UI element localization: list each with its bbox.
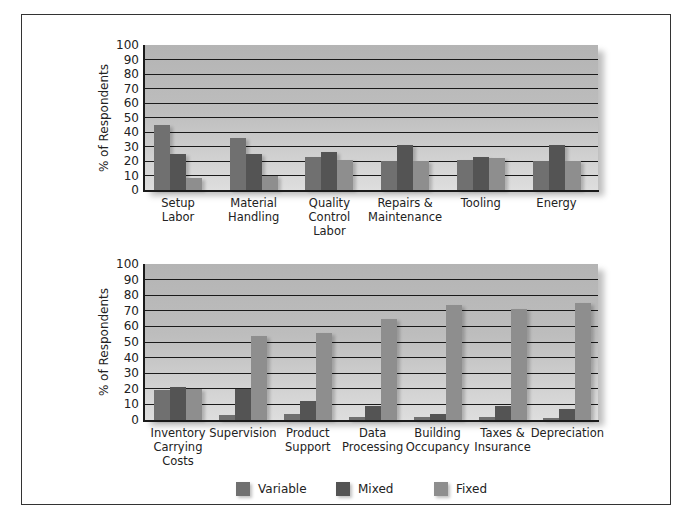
- gridline: [144, 357, 598, 358]
- bar-mixed: [495, 406, 511, 420]
- x-axis: [143, 420, 599, 422]
- bar-mixed: [170, 154, 186, 190]
- bar-fixed: [575, 303, 591, 420]
- y-tick-label: 0: [109, 184, 139, 196]
- y-tick-label: 100: [109, 39, 139, 51]
- gridline: [144, 326, 598, 327]
- bar-fixed: [186, 178, 202, 190]
- bar-variable: [305, 157, 321, 190]
- legend-label: Variable: [258, 482, 307, 496]
- legend-item-variable: Variable: [236, 482, 307, 496]
- bar-mixed: [170, 387, 186, 420]
- bar-variable: [230, 138, 246, 190]
- y-tick-label: 40: [109, 126, 139, 138]
- x-axis: [143, 190, 599, 192]
- y-axis-label: % of Respondents: [97, 58, 111, 178]
- bar-variable: [154, 390, 170, 420]
- gridline: [144, 388, 598, 389]
- y-tick-label: 60: [109, 320, 139, 332]
- x-category-label: Energy: [512, 196, 602, 210]
- gridline: [144, 117, 598, 118]
- bar-variable: [381, 161, 397, 190]
- gridline: [144, 373, 598, 374]
- y-tick-label: 100: [109, 258, 139, 270]
- legend-label: Mixed: [358, 482, 393, 496]
- y-tick-label: 60: [109, 97, 139, 109]
- bar-fixed: [262, 176, 278, 191]
- y-tick-label: 50: [109, 336, 139, 348]
- gridline: [144, 74, 598, 75]
- plot-area: [144, 264, 598, 420]
- plot-area: [144, 45, 598, 190]
- y-tick-label: 50: [109, 112, 139, 124]
- bar-fixed: [565, 161, 581, 190]
- bar-mixed: [473, 157, 489, 190]
- bar-mixed: [235, 389, 251, 420]
- gridline: [144, 404, 598, 405]
- gridline: [144, 310, 598, 311]
- legend-swatch-fixed: [434, 482, 448, 496]
- bar-fixed: [489, 158, 505, 190]
- gridline: [144, 279, 598, 280]
- bar-fixed: [511, 309, 527, 420]
- gridline: [144, 132, 598, 133]
- y-axis-label: % of Respondents: [97, 282, 111, 402]
- gridline: [144, 59, 598, 60]
- y-axis: [143, 264, 145, 421]
- y-tick-label: 70: [109, 83, 139, 95]
- gridline: [144, 103, 598, 104]
- y-tick-label: 90: [109, 274, 139, 286]
- bar-fixed: [446, 305, 462, 420]
- bar-fixed: [186, 389, 202, 420]
- bar-mixed: [559, 409, 575, 420]
- x-category-label: Depreciation: [522, 426, 612, 440]
- bar-fixed: [413, 161, 429, 190]
- y-tick-label: 0: [109, 414, 139, 426]
- bar-fixed: [251, 336, 267, 420]
- y-tick-label: 30: [109, 367, 139, 379]
- y-tick-label: 20: [109, 383, 139, 395]
- bar-fixed: [337, 160, 353, 190]
- y-axis: [143, 45, 145, 191]
- bar-mixed: [365, 406, 381, 420]
- legend-swatch-mixed: [336, 482, 350, 496]
- bar-fixed: [316, 333, 332, 420]
- y-tick-label: 10: [109, 170, 139, 182]
- legend-label: Fixed: [456, 482, 487, 496]
- y-tick-label: 20: [109, 155, 139, 167]
- bar-mixed: [397, 145, 413, 190]
- bar-variable: [533, 161, 549, 190]
- bar-fixed: [381, 319, 397, 420]
- bar-mixed: [300, 401, 316, 420]
- gridline: [144, 88, 598, 89]
- bar-mixed: [246, 154, 262, 190]
- legend-item-fixed: Fixed: [434, 482, 487, 496]
- gridline: [144, 161, 598, 162]
- y-tick-label: 90: [109, 54, 139, 66]
- gridline: [144, 175, 598, 176]
- gridline: [144, 342, 598, 343]
- y-tick-label: 80: [109, 68, 139, 80]
- legend-item-mixed: Mixed: [336, 482, 393, 496]
- bar-mixed: [549, 145, 565, 190]
- y-tick-label: 30: [109, 141, 139, 153]
- y-tick-label: 40: [109, 352, 139, 364]
- y-tick-label: 80: [109, 289, 139, 301]
- y-tick-label: 10: [109, 398, 139, 410]
- legend-swatch-variable: [236, 482, 250, 496]
- gridline: [144, 295, 598, 296]
- bar-mixed: [321, 152, 337, 190]
- y-tick-label: 70: [109, 305, 139, 317]
- bar-variable: [457, 160, 473, 190]
- bar-variable: [154, 125, 170, 190]
- gridline: [144, 146, 598, 147]
